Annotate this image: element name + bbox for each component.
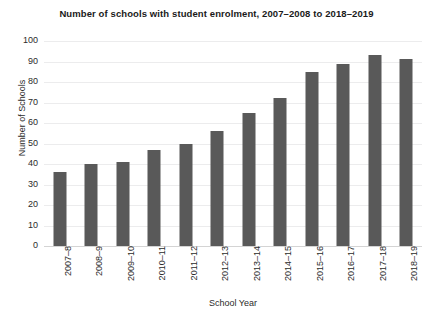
bar [242,113,255,246]
bar [337,64,350,246]
x-tick-label: 2014–15 [284,246,293,281]
bar [274,98,287,246]
bar [305,72,318,246]
bars-series [44,41,422,246]
y-tick-label: 60 [8,118,38,127]
x-axis-tick-labels: 2007–82008–92009–102010–112011–122012–13… [44,246,422,298]
y-tick-label: 100 [8,36,38,45]
chart-title: Number of schools with student enrolment… [0,8,433,19]
x-tick-label: 2011–12 [190,246,199,280]
bar [211,131,224,246]
bar-slot [202,41,234,246]
y-tick-label: 30 [8,180,38,189]
x-tick-label: 2008–9 [95,246,104,276]
x-axis-title: School Year [44,298,422,308]
y-tick-label: 20 [8,200,38,209]
y-tick-label: 70 [8,98,38,107]
bar-slot [139,41,171,246]
bar-chart-figure: Number of schools with student enrolment… [0,0,433,322]
x-tick-label: 2007–8 [64,246,73,276]
bar-slot [391,41,423,246]
bar-slot [296,41,328,246]
bar-slot [107,41,139,246]
x-tick-label: 2015–16 [316,246,325,281]
x-tick-label: 2017–18 [379,246,388,281]
y-tick-label: 40 [8,159,38,168]
bar [85,164,98,246]
bar-slot [44,41,76,246]
y-tick-label: 50 [8,139,38,148]
bar-slot [328,41,360,246]
y-tick-label: 90 [8,57,38,66]
bar-slot [233,41,265,246]
x-tick-label: 2016–17 [347,246,356,281]
bar [400,59,413,246]
x-tick-label: 2018–19 [410,246,419,281]
bar-slot [76,41,108,246]
bar [53,172,66,246]
y-tick-label: 10 [8,221,38,230]
bar-slot [359,41,391,246]
bar [179,144,192,247]
x-tick-label: 2012–13 [221,246,230,281]
plot-area [44,41,422,246]
x-tick-label: 2013–14 [253,246,262,281]
x-tick-label: 2010–11 [158,246,167,280]
bar-slot [170,41,202,246]
x-tick-label: 2009–10 [127,246,136,281]
bar [148,150,161,246]
bar [116,162,129,246]
y-tick-label: 80 [8,77,38,86]
bar-slot [265,41,297,246]
bar [368,55,381,246]
y-tick-label: 0 [8,241,38,250]
